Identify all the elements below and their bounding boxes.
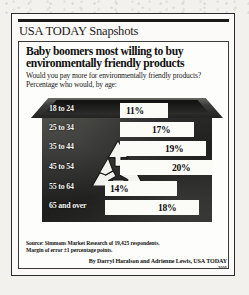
infographic-panel: Baby boomers most willing to buy environ…	[18, 41, 229, 269]
age-group-label: 35 to 44	[49, 142, 74, 151]
chart-stage: 11%17%19%20%14%18% 18 to 2425 to 3435 to…	[19, 92, 229, 236]
chart-bar	[120, 141, 206, 156]
subheadline: Would you pay more for environmentally f…	[26, 72, 222, 89]
chart-bar	[105, 200, 199, 215]
bar-value-label: 14%	[110, 183, 128, 194]
bar-value-label: 11%	[126, 105, 144, 116]
age-group-label: 65 and over	[49, 201, 86, 210]
source-line-2: Margin of error ±1 percentage points.	[26, 247, 216, 254]
age-group-label: 45 to 54	[49, 162, 74, 171]
snapshot-card: USA TODAY Snapshots Baby boomers most wi…	[11, 13, 235, 276]
scan-artifact	[0, 0, 249, 14]
source-line-1: Source: Simmons Market Research of 19,42…	[26, 240, 216, 247]
bar-value-label: 19%	[165, 143, 183, 154]
scanned-page: USA TODAY Snapshots Baby boomers most wi…	[0, 0, 249, 295]
age-group-label: 25 to 34	[49, 123, 74, 132]
header-rule	[18, 19, 229, 22]
byline: By Darryl Haralson and Adrienne Lewis, U…	[89, 258, 227, 264]
byline-mark: 2005	[218, 265, 227, 270]
age-group-label: 55 to 64	[49, 182, 74, 191]
bar-value-label: 18%	[158, 202, 176, 213]
bar-value-label: 17%	[152, 124, 170, 135]
source-note: Source: Simmons Market Research of 19,42…	[26, 240, 216, 253]
bar-value-label: 20%	[172, 162, 190, 173]
chart-bar	[120, 160, 213, 175]
headline: Baby boomers most willing to buy environ…	[26, 46, 222, 71]
brand-title: USA TODAY Snapshots	[19, 24, 138, 39]
age-group-label: 18 to 24	[49, 104, 74, 113]
